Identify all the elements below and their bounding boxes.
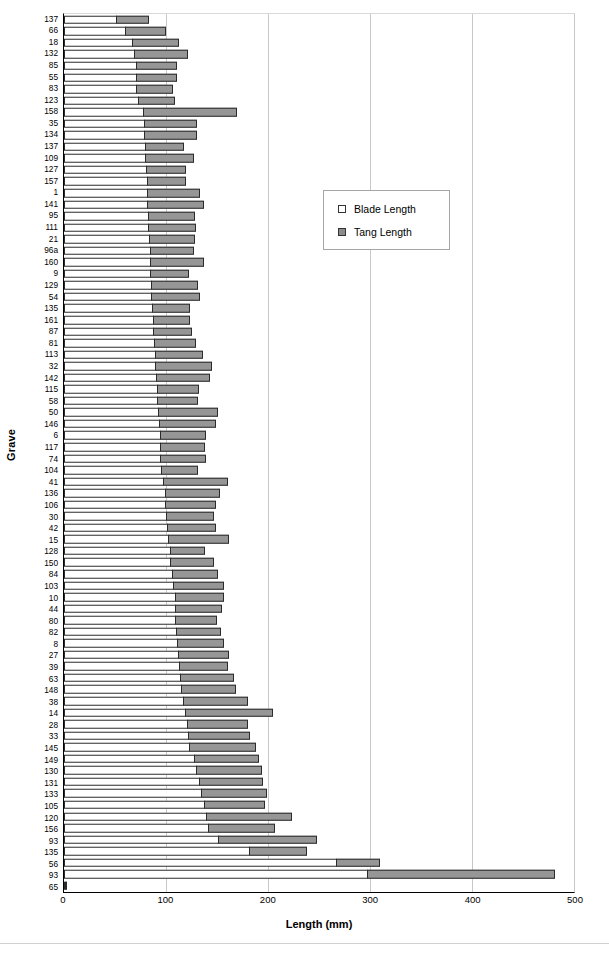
bar-row [64, 349, 574, 361]
bar-row [64, 799, 574, 811]
y-axis-tick-label: 32 [22, 360, 62, 372]
stacked-bar [64, 62, 178, 71]
bar-segment-tang-length [159, 420, 216, 429]
stacked-bar [64, 177, 187, 186]
stacked-bar [64, 812, 294, 821]
bar-row [64, 384, 574, 396]
y-axis-tick-label: 133 [22, 789, 62, 801]
bar-row [64, 164, 574, 176]
bar-segment-blade-length [64, 489, 166, 498]
y-axis-tick-label: 149 [22, 754, 62, 766]
bar-segment-tang-length [157, 397, 198, 406]
bar-segment-blade-length [64, 62, 137, 71]
y-axis-tick-label: 137 [22, 13, 62, 25]
bar-segment-tang-length [160, 431, 206, 440]
bar-row [64, 788, 574, 800]
bar-segment-tang-length [180, 674, 234, 683]
bar-segment-blade-length [64, 812, 207, 821]
legend-swatch-tang [338, 228, 346, 236]
y-axis-tick-label: 128 [22, 546, 62, 558]
y-axis-tick-label: 74 [22, 453, 62, 465]
y-axis-tick-label: 63 [22, 673, 62, 685]
x-axis-tick-label: 100 [157, 894, 173, 905]
bar-row [64, 476, 574, 488]
bar-segment-blade-length [64, 627, 177, 636]
bar-segment-blade-length [64, 766, 197, 775]
stacked-bar [64, 166, 187, 175]
bar-segment-tang-length [196, 766, 262, 775]
bar-segment-blade-length [64, 558, 171, 567]
bar-segment-tang-length [146, 166, 187, 175]
stacked-bar [64, 420, 217, 429]
stacked-bar [64, 558, 215, 567]
bar-segment-blade-length [64, 108, 144, 117]
y-axis-tick-label: 161 [22, 314, 62, 326]
y-axis-tick-label: 15 [22, 534, 62, 546]
bar-segment-tang-length [138, 96, 175, 105]
bar-segment-blade-length [64, 281, 152, 290]
stacked-bar [64, 547, 206, 556]
y-axis-tick-label: 120 [22, 812, 62, 824]
stacked-bar [64, 593, 225, 602]
y-axis-tick-label: 156 [22, 823, 62, 835]
bar-segment-tang-length [176, 627, 221, 636]
bar-segment-tang-length [336, 858, 380, 867]
stacked-bar [64, 882, 67, 891]
legend-item: Tang Length [338, 226, 449, 238]
y-axis-tick-label: 95 [22, 210, 62, 222]
stacked-bar [64, 362, 213, 371]
bar-row [64, 26, 574, 38]
bar-row [64, 591, 574, 603]
y-axis-tick-label: 135 [22, 302, 62, 314]
bar-segment-tang-length [132, 39, 179, 48]
bar-row [64, 303, 574, 315]
stacked-bar [64, 616, 218, 625]
y-axis-tick-label: 66 [22, 25, 62, 37]
y-axis-tick-label: 65 [22, 881, 62, 893]
bar-row [64, 557, 574, 569]
stacked-bar [64, 443, 206, 452]
bar-segment-tang-length [189, 743, 255, 752]
bar-row [64, 545, 574, 557]
y-axis-tick-label: 85 [22, 59, 62, 71]
bar-segment-blade-length [64, 581, 174, 590]
bar-segment-blade-length [64, 824, 209, 833]
stacked-bar [64, 466, 199, 475]
y-axis-tick-label: 87 [22, 326, 62, 338]
stacked-bar [64, 246, 195, 255]
bar-segment-tang-length [156, 373, 210, 382]
bar-segment-blade-length [64, 431, 161, 440]
y-axis-tick-label: 141 [22, 198, 62, 210]
bar-row [64, 118, 574, 130]
bar-segment-blade-length [64, 639, 178, 648]
bar-segment-tang-length [153, 327, 192, 336]
bar-segment-blade-length [64, 835, 219, 844]
y-axis-tick-label: 136 [22, 488, 62, 500]
bar-segment-tang-length [165, 489, 220, 498]
bar-segment-tang-length [160, 443, 205, 452]
bar-segment-blade-length [64, 27, 126, 36]
bar-row [64, 280, 574, 292]
y-axis-tick-label: 58 [22, 395, 62, 407]
bar-row [64, 857, 574, 869]
gridline [574, 14, 575, 892]
bar-row [64, 291, 574, 303]
legend-swatch-blade [338, 205, 346, 213]
y-axis-tick-label: 148 [22, 685, 62, 697]
bar-row [64, 418, 574, 430]
bar-segment-tang-length [163, 477, 228, 486]
stacked-bar [64, 858, 381, 867]
stacked-bar [64, 662, 229, 671]
y-axis-tick-label: 30 [22, 511, 62, 523]
stacked-bar [64, 119, 198, 128]
bar-segment-blade-length [64, 697, 184, 706]
bar-segment-tang-length [183, 697, 247, 706]
bar-segment-tang-length [144, 131, 197, 140]
stacked-bar [64, 431, 207, 440]
bar-segment-blade-length [64, 154, 146, 163]
footer-divider [0, 943, 609, 944]
legend: Blade LengthTang Length [323, 190, 450, 250]
bar-segment-tang-length [151, 293, 200, 302]
bar-segment-blade-length [64, 870, 368, 879]
bar-row [64, 141, 574, 153]
